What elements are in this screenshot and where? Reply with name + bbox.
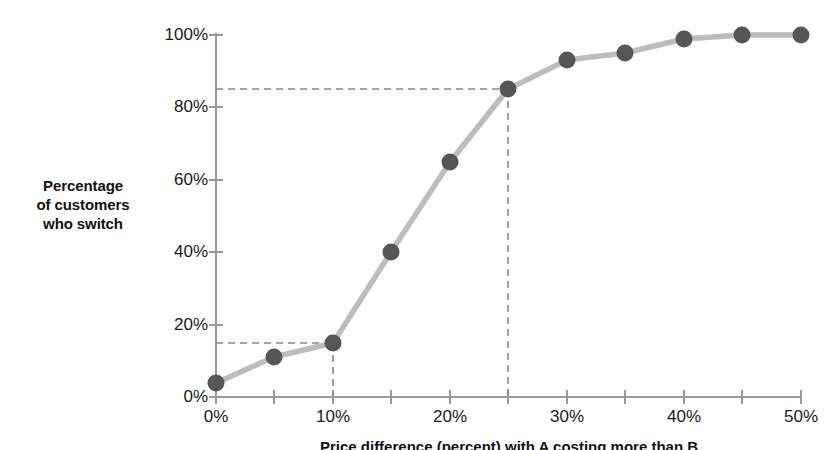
data-point xyxy=(793,27,810,44)
plot-area xyxy=(0,0,831,450)
data-point xyxy=(559,52,576,69)
line-chart: Percentage of customers who switch 100% … xyxy=(0,0,831,450)
data-point xyxy=(676,31,693,48)
data-point xyxy=(383,244,400,261)
data-point xyxy=(266,349,283,366)
data-point xyxy=(208,375,225,392)
annotation-group xyxy=(216,89,508,397)
data-point xyxy=(500,81,517,98)
data-point xyxy=(442,154,459,171)
data-point xyxy=(617,45,634,62)
data-point xyxy=(734,27,751,44)
data-point xyxy=(325,335,342,352)
